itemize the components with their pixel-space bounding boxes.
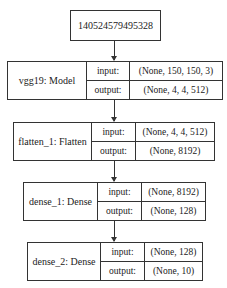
- layer-name: flatten_1: Flatten: [14, 123, 92, 160]
- input-node: 140524579495328: [70, 10, 161, 41]
- layer-name: dense_2: Dense: [28, 243, 101, 280]
- input-shape: (None, 8192): [142, 183, 205, 202]
- layer-dense-1: dense_1: Dense input: output: (None, 819…: [23, 182, 206, 221]
- output-shape: (None, 10): [145, 262, 202, 280]
- output-shape: (None, 4, 4, 512): [130, 81, 222, 99]
- output-label: output:: [87, 81, 129, 99]
- input-shape: (None, 128): [145, 243, 202, 262]
- input-shape: (None, 4, 4, 512): [136, 123, 214, 142]
- layer-name: vgg19: Model: [8, 62, 87, 99]
- layer-vgg19: vgg19: Model input: output: (None, 150, …: [7, 61, 223, 100]
- layer-flatten-1: flatten_1: Flatten input: output: (None,…: [13, 122, 215, 161]
- input-label: input:: [101, 243, 144, 262]
- arrow-connector: [114, 221, 115, 241]
- input-node-label: 140524579495328: [78, 20, 153, 31]
- arrow-connector: [114, 41, 115, 60]
- output-shape: (None, 8192): [136, 142, 214, 160]
- input-label: input:: [98, 183, 141, 202]
- output-label: output:: [98, 202, 141, 220]
- layer-dense-2: dense_2: Dense input: output: (None, 128…: [27, 242, 203, 281]
- input-label: input:: [87, 62, 129, 81]
- output-shape: (None, 128): [142, 202, 205, 220]
- input-shape: (None, 150, 150, 3): [130, 62, 222, 81]
- arrow-connector: [114, 161, 115, 181]
- arrow-connector: [114, 100, 115, 121]
- layer-name: dense_1: Dense: [24, 183, 98, 220]
- output-label: output:: [101, 262, 144, 280]
- output-label: output:: [92, 142, 135, 160]
- input-label: input:: [92, 123, 135, 142]
